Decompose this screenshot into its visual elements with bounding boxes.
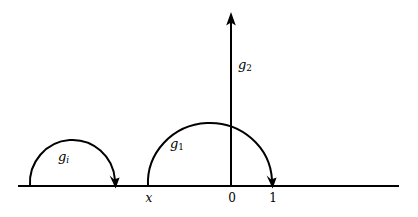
geodesic-gi-subscript: i xyxy=(66,155,69,165)
geodesic-diagram: gi g1 g2 x 0 1 xyxy=(0,0,418,217)
geodesic-g1-label: g1 xyxy=(170,137,184,152)
geodesic-gi-arc xyxy=(30,140,115,186)
axis-tick-label-x: x xyxy=(141,192,157,204)
geodesic-g1-arc xyxy=(148,123,272,186)
geodesic-gi-label: gi xyxy=(58,150,69,165)
geodesic-g2-label: g2 xyxy=(238,58,252,73)
geodesic-g1-subscript: 1 xyxy=(178,142,184,152)
geodesic-g2-subscript: 2 xyxy=(246,63,252,73)
axis-tick-label-1: 1 xyxy=(265,192,281,204)
axis-tick-label-0: 0 xyxy=(224,192,240,204)
diagram-canvas xyxy=(0,0,418,217)
